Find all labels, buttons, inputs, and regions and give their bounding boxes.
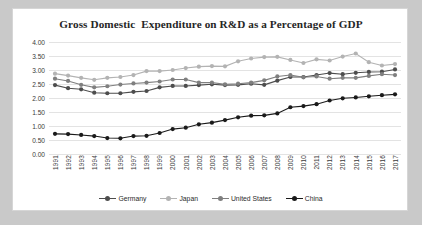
series-germany	[53, 67, 397, 95]
data-point	[158, 131, 162, 135]
data-point	[328, 98, 332, 102]
x-axis-tick: 1992	[65, 155, 72, 170]
data-point	[301, 75, 305, 79]
data-point	[249, 114, 253, 118]
data-point	[118, 91, 122, 95]
series-line	[55, 94, 395, 138]
y-axis-tick: 2.00	[32, 95, 45, 102]
data-point	[197, 122, 201, 126]
data-point	[92, 91, 96, 95]
data-point	[79, 83, 83, 87]
data-point	[158, 85, 162, 89]
x-axis-tick: 2003	[209, 155, 216, 170]
legend-item-china[interactable]: China	[286, 195, 323, 202]
plot-area: 4.003.503.002.502.001.501.000.500.00	[49, 42, 401, 154]
data-point	[367, 70, 371, 74]
data-point	[223, 64, 227, 68]
y-axis-tick: 0.00	[32, 151, 45, 158]
legend-item-japan[interactable]: Japan	[160, 195, 198, 202]
x-axis-tick: 2002	[196, 155, 203, 170]
data-point	[66, 86, 70, 90]
x-axis-tick: 2000	[169, 155, 176, 170]
data-point	[367, 94, 371, 98]
chart-legend: GermanyJapanUnited StatesChina	[13, 195, 409, 202]
data-point	[288, 105, 292, 109]
data-point	[118, 75, 122, 79]
legend-item-germany[interactable]: Germany	[99, 195, 146, 202]
y-axis-tick: 1.00	[32, 123, 45, 130]
data-point	[328, 58, 332, 62]
data-point	[236, 115, 240, 119]
data-point	[131, 90, 135, 94]
data-point	[197, 65, 201, 69]
x-axis-tick: 1993	[78, 155, 85, 170]
data-point	[249, 81, 253, 85]
data-point	[53, 72, 57, 76]
x-axis-tick: 1991	[52, 155, 59, 170]
x-axis-tick: 2007	[261, 155, 268, 170]
legend-label: China	[305, 195, 323, 202]
x-axis-tick-labels: 1991199219931994199519961997199819992000…	[49, 155, 401, 189]
data-point	[158, 79, 162, 83]
legend-label: Japan	[179, 195, 198, 202]
data-point	[393, 67, 397, 71]
x-axis-tick: 2012	[326, 155, 333, 170]
data-point	[144, 81, 148, 85]
data-point	[171, 84, 175, 88]
data-point	[275, 79, 279, 83]
x-axis-tick: 2006	[248, 155, 255, 170]
x-axis-tick: 2014	[353, 155, 360, 170]
data-point	[314, 74, 318, 78]
data-point	[92, 134, 96, 138]
data-point	[367, 60, 371, 64]
data-point	[158, 69, 162, 73]
data-point	[301, 61, 305, 65]
data-point	[171, 77, 175, 81]
data-point	[105, 76, 109, 80]
legend-label: United States	[231, 195, 272, 202]
chart-container: Gross Domestic Expenditure on R&D as a P…	[12, 8, 408, 211]
y-axis-tick: 2.50	[32, 81, 45, 88]
data-point	[184, 66, 188, 70]
legend-swatch-icon	[212, 195, 229, 202]
legend-swatch-icon	[160, 195, 177, 202]
data-point	[105, 136, 109, 140]
data-point	[262, 55, 266, 59]
data-point	[53, 83, 57, 87]
data-point	[118, 136, 122, 140]
x-axis-tick: 2011	[313, 155, 320, 170]
data-point	[171, 127, 175, 131]
data-point	[393, 92, 397, 96]
data-point	[184, 126, 188, 130]
x-axis-tick: 1994	[91, 155, 98, 170]
data-point	[79, 133, 83, 137]
data-point	[393, 62, 397, 66]
y-axis-tick: 3.00	[32, 67, 45, 74]
data-point	[144, 69, 148, 73]
data-point	[380, 93, 384, 97]
data-point	[184, 77, 188, 81]
data-point	[131, 134, 135, 138]
data-point	[236, 59, 240, 63]
data-point	[79, 87, 83, 91]
series-china	[53, 92, 397, 140]
data-point	[210, 64, 214, 68]
data-point	[66, 132, 70, 136]
legend-item-united-states[interactable]: United States	[212, 195, 272, 202]
data-point	[341, 72, 345, 76]
series-lines	[49, 42, 401, 154]
x-axis-tick: 2013	[339, 155, 346, 170]
data-point	[354, 71, 358, 75]
x-axis-tick: 1996	[117, 155, 124, 170]
y-axis-tick: 3.50	[32, 53, 45, 60]
data-point	[92, 85, 96, 89]
data-point	[275, 111, 279, 115]
data-point	[105, 84, 109, 88]
legend-swatch-icon	[286, 195, 303, 202]
x-axis-tick: 1995	[104, 155, 111, 170]
data-point	[275, 55, 279, 59]
data-point	[236, 82, 240, 86]
data-point	[262, 83, 266, 87]
data-point	[314, 57, 318, 61]
data-point	[184, 84, 188, 88]
